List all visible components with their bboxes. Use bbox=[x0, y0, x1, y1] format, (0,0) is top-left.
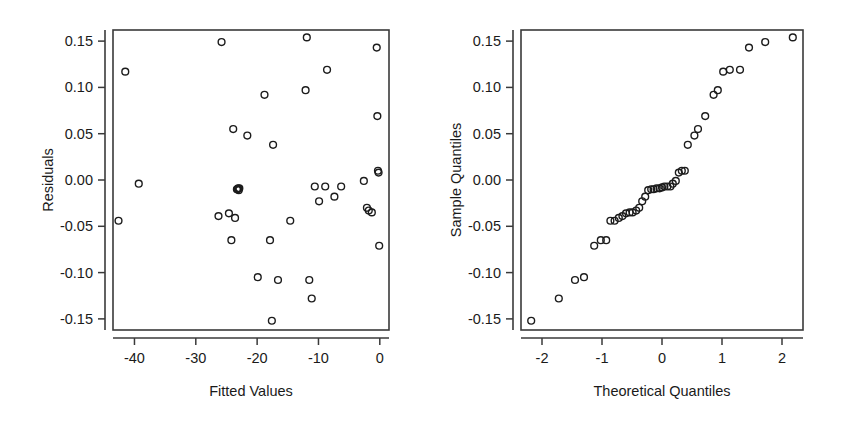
data-point bbox=[232, 215, 239, 222]
data-point bbox=[135, 180, 142, 187]
y-tick-label-1-0: 0.15 bbox=[473, 33, 501, 49]
data-point bbox=[762, 39, 769, 46]
y-axis-title-1: Sample Quantiles bbox=[448, 123, 464, 237]
data-point bbox=[726, 66, 733, 73]
y-tick-label-0-4: -0.05 bbox=[60, 218, 93, 234]
y-tick-label-0-1: 0.10 bbox=[65, 79, 93, 95]
plot-frame-1 bbox=[521, 30, 803, 330]
data-point bbox=[268, 317, 275, 324]
x-tick-label-0-2: -20 bbox=[247, 350, 268, 366]
figure-canvas: -40-30-20-1000.150.100.050.00-0.05-0.10-… bbox=[0, 0, 841, 441]
data-points-1 bbox=[528, 34, 796, 324]
x-tick-label-0-4: 0 bbox=[376, 350, 384, 366]
data-point bbox=[115, 217, 122, 224]
y-tick-label-1-5: -0.10 bbox=[468, 265, 501, 281]
data-point bbox=[789, 34, 796, 41]
data-point bbox=[376, 242, 383, 249]
y-tick-label-1-3: 0.00 bbox=[473, 172, 501, 188]
data-point bbox=[374, 113, 381, 120]
data-point bbox=[287, 217, 294, 224]
panel-residuals-vs-fitted: -40-30-20-1000.150.100.050.00-0.05-0.10-… bbox=[0, 0, 420, 441]
y-tick-label-0-3: 0.00 bbox=[65, 172, 93, 188]
data-point bbox=[261, 91, 268, 98]
data-point bbox=[702, 113, 709, 120]
data-point bbox=[322, 183, 329, 190]
data-point bbox=[230, 126, 237, 133]
y-tick-label-1-6: -0.15 bbox=[468, 311, 501, 327]
x-tick-label-1-4: 2 bbox=[778, 350, 786, 366]
data-point bbox=[254, 274, 261, 281]
data-point bbox=[373, 44, 380, 51]
x-axis-title-1: Theoretical Quantiles bbox=[593, 383, 730, 399]
data-point bbox=[684, 141, 691, 148]
data-point bbox=[308, 295, 315, 302]
data-point bbox=[555, 295, 562, 302]
data-point bbox=[303, 34, 310, 41]
x-tick-label-1-2: 0 bbox=[658, 350, 666, 366]
data-point bbox=[746, 44, 753, 51]
data-point bbox=[215, 213, 222, 220]
data-point bbox=[244, 132, 251, 139]
data-point bbox=[360, 178, 367, 185]
data-point bbox=[591, 242, 598, 249]
data-point bbox=[218, 39, 225, 46]
data-point bbox=[302, 87, 309, 94]
x-tick-label-1-0: -2 bbox=[536, 350, 549, 366]
data-points-0 bbox=[115, 34, 382, 324]
y-tick-label-0-5: -0.10 bbox=[60, 265, 93, 281]
y-tick-label-0-6: -0.15 bbox=[60, 311, 93, 327]
data-point bbox=[528, 317, 535, 324]
qq-scatter-plot: -2-10120.150.100.050.00-0.05-0.10-0.15Th… bbox=[420, 0, 841, 441]
data-point bbox=[737, 66, 744, 73]
data-point bbox=[306, 277, 313, 284]
data-point bbox=[720, 68, 727, 75]
y-tick-label-0-2: 0.05 bbox=[65, 126, 93, 142]
data-point bbox=[572, 277, 579, 284]
x-tick-label-1-1: -1 bbox=[596, 350, 609, 366]
y-tick-label-0-0: 0.15 bbox=[65, 33, 93, 49]
data-point bbox=[324, 66, 331, 73]
data-point bbox=[695, 126, 702, 133]
data-point bbox=[228, 237, 235, 244]
data-point bbox=[691, 132, 698, 139]
y-tick-label-1-1: 0.10 bbox=[473, 79, 501, 95]
data-point bbox=[581, 274, 588, 281]
data-point bbox=[226, 210, 233, 217]
data-point bbox=[122, 68, 129, 75]
data-point bbox=[275, 277, 282, 284]
panel-normal-qq: -2-10120.150.100.050.00-0.05-0.10-0.15Th… bbox=[420, 0, 841, 441]
x-tick-label-1-3: 1 bbox=[718, 350, 726, 366]
x-axis-title-0: Fitted Values bbox=[209, 383, 293, 399]
x-tick-label-0-0: -40 bbox=[124, 350, 145, 366]
data-point bbox=[311, 183, 318, 190]
data-point bbox=[338, 183, 345, 190]
residuals-scatter-plot: -40-30-20-1000.150.100.050.00-0.05-0.10-… bbox=[0, 0, 420, 441]
data-point bbox=[267, 237, 274, 244]
y-tick-label-1-2: 0.05 bbox=[473, 126, 501, 142]
x-tick-label-0-3: -10 bbox=[308, 350, 329, 366]
x-tick-label-0-1: -30 bbox=[185, 350, 206, 366]
y-axis-title-0: Residuals bbox=[40, 148, 56, 212]
y-tick-label-1-4: -0.05 bbox=[468, 218, 501, 234]
data-point bbox=[316, 198, 323, 205]
data-point bbox=[331, 193, 338, 200]
plot-frame-0 bbox=[113, 30, 389, 330]
data-point bbox=[714, 87, 721, 94]
data-point bbox=[270, 141, 277, 148]
